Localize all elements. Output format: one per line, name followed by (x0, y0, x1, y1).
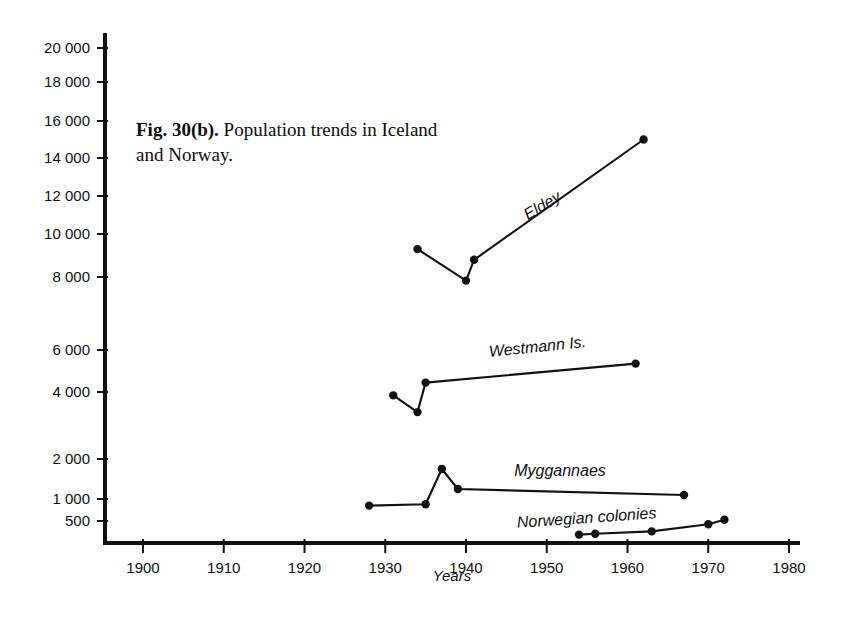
series-label-westmann-is: Westmann Is. (488, 333, 587, 360)
data-point (631, 359, 639, 367)
data-point (575, 530, 583, 538)
data-point (438, 465, 446, 473)
x-tick-label: 1910 (207, 559, 240, 576)
series-line-westmann-is (393, 364, 635, 413)
series-label-eldey: Eldey (521, 187, 565, 223)
data-point (704, 520, 712, 528)
data-point (413, 245, 421, 253)
x-tick-label: 1950 (530, 559, 563, 576)
x-tick-label: 1930 (369, 559, 402, 576)
data-point (454, 485, 462, 493)
y-tick-label: 10 000 (44, 225, 90, 242)
data-point (648, 527, 656, 535)
x-axis-title: Years (433, 567, 472, 584)
series-label-myggannaes: Myggannaes (514, 462, 606, 479)
y-tick-label: 16 000 (44, 112, 90, 129)
y-tick-label: 6 000 (52, 341, 90, 358)
x-tick-label: 1900 (126, 559, 159, 576)
data-point (680, 491, 688, 499)
data-point (421, 378, 429, 386)
data-point (365, 501, 373, 509)
data-point (720, 516, 728, 524)
y-tick-label: 500 (65, 512, 90, 529)
series-label-norwegian-colonies: Norwegian colonies (516, 504, 656, 531)
x-tick-label: 1980 (772, 559, 805, 576)
data-point (591, 530, 599, 538)
y-tick-label: 1 000 (52, 490, 90, 507)
y-axis-ticks: 5001 0002 0004 0006 0008 00010 00012 000… (44, 39, 108, 529)
x-tick-label: 1960 (611, 559, 644, 576)
y-tick-label: 8 000 (52, 268, 90, 285)
figure-population-trends: Fig. 30(b). Population trends in Iceland… (0, 0, 843, 625)
data-point (389, 391, 397, 399)
y-tick-label: 12 000 (44, 187, 90, 204)
x-tick-label: 1920 (288, 559, 321, 576)
y-tick-label: 18 000 (44, 73, 90, 90)
data-point (639, 135, 647, 143)
y-tick-label: 14 000 (44, 149, 90, 166)
y-tick-label: 2 000 (52, 450, 90, 467)
data-point (413, 408, 421, 416)
data-point (462, 276, 470, 284)
data-point (470, 256, 478, 264)
chart-canvas: 5001 0002 0004 0006 0008 00010 00012 000… (0, 0, 843, 625)
y-tick-label: 20 000 (44, 39, 90, 56)
x-tick-label: 1970 (692, 559, 725, 576)
y-tick-label: 4 000 (52, 383, 90, 400)
series-labels-layer: EldeyWestmann Is.MyggannaesNorwegian col… (488, 187, 657, 531)
data-point (421, 500, 429, 508)
axis-lines (105, 33, 800, 543)
